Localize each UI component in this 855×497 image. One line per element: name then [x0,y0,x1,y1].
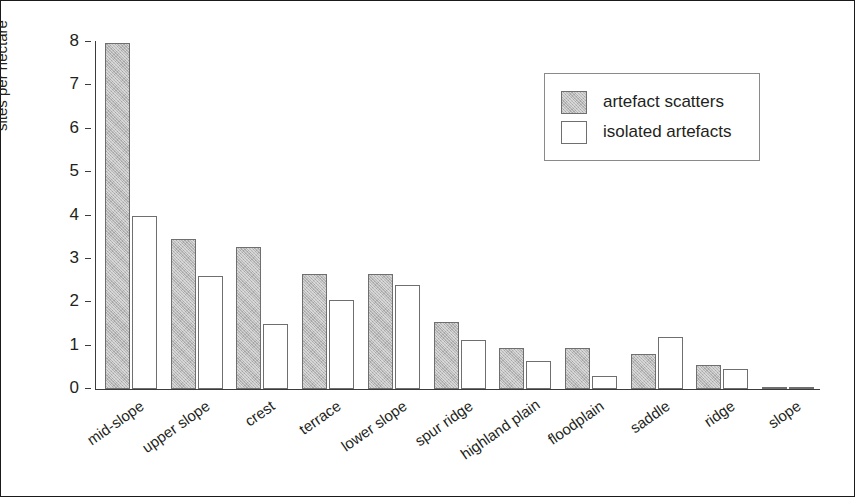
legend-item-isolated-artefacts: isolated artefacts [561,117,745,147]
chart-figure: sites per hectare 012345678 mid-slopeupp… [0,0,855,497]
y-tick-label: 5 [70,161,79,181]
y-tick-label: 6 [70,118,79,138]
y-tick-label: 0 [70,378,79,398]
legend-swatch-artefact-scatters [561,91,587,114]
y-tick-mark [85,128,91,129]
y-tick-mark [85,345,91,346]
bar-isolated-artefacts [329,300,354,389]
bar-group [368,42,420,389]
bar-artefact-scatters [696,365,721,389]
y-tick-mark [85,301,91,302]
y-axis-title: sites per hectare [0,0,10,131]
chart-legend: artefact scatters isolated artefacts [544,73,760,161]
x-axis-line [95,389,820,390]
y-tick-mark [85,215,91,216]
legend-label-isolated-artefacts: isolated artefacts [603,122,732,142]
bar-isolated-artefacts [658,337,683,389]
y-tick-label: 8 [70,31,79,51]
y-tick-label: 4 [70,205,79,225]
legend-item-artefact-scatters: artefact scatters [561,87,745,117]
y-tick-label: 3 [70,248,79,268]
bar-artefact-scatters [302,274,327,389]
bar-group [434,42,486,389]
bar-artefact-scatters [171,239,196,389]
bar-isolated-artefacts [198,276,223,389]
bar-isolated-artefacts [723,369,748,389]
y-tick-mark [85,171,91,172]
bar-isolated-artefacts [789,387,814,389]
bar-artefact-scatters [499,348,524,389]
bar-group [171,42,223,389]
bar-artefact-scatters [368,274,393,389]
bar-artefact-scatters [236,247,261,389]
bar-isolated-artefacts [395,285,420,389]
y-tick-mark [85,41,91,42]
bar-isolated-artefacts [592,376,617,389]
legend-swatch-isolated-artefacts [561,121,587,144]
bar-isolated-artefacts [526,361,551,389]
bar-isolated-artefacts [461,340,486,389]
bar-artefact-scatters [631,354,656,389]
bar-artefact-scatters [565,348,590,389]
y-tick-label: 1 [70,335,79,355]
y-tick-label: 2 [70,291,79,311]
y-tick-mark [85,258,91,259]
bar-artefact-scatters [762,387,787,389]
bar-group [105,42,157,389]
y-tick-mark [85,84,91,85]
legend-label-artefact-scatters: artefact scatters [603,92,724,112]
bar-artefact-scatters [434,322,459,389]
bar-group [302,42,354,389]
y-tick-label: 7 [70,74,79,94]
bar-group [236,42,288,389]
bar-group [762,42,814,389]
bar-isolated-artefacts [132,216,157,390]
bar-isolated-artefacts [263,324,288,389]
y-tick-mark [85,388,91,389]
bar-artefact-scatters [105,43,130,389]
